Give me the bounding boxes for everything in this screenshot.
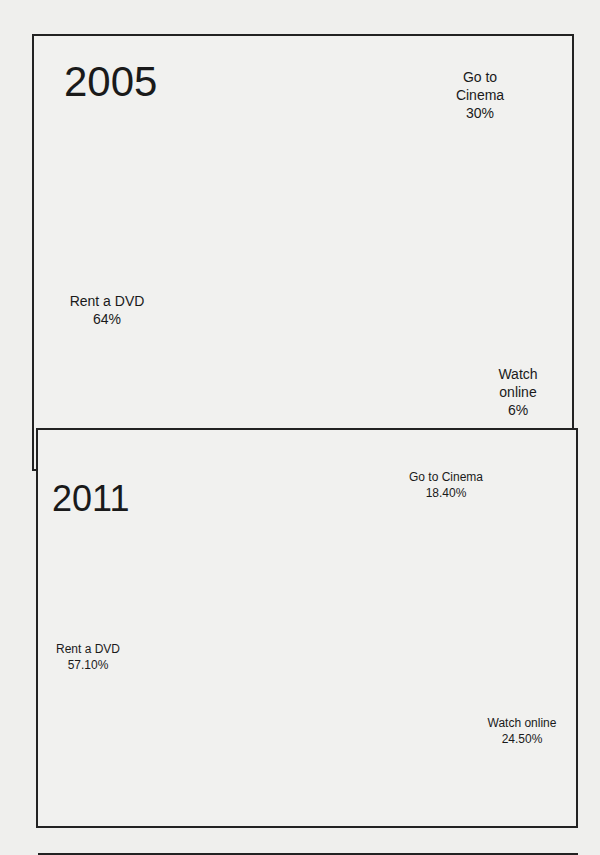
chart-title-2011: 2011 xyxy=(52,478,129,520)
label-dvd-2011: Rent a DVD 57.10% xyxy=(48,642,128,673)
label-dvd-2005: Rent a DVD 64% xyxy=(60,292,154,328)
label-cinema-2011: Go to Cinema 18.40% xyxy=(396,470,496,501)
label-online-2005: Watch online 6% xyxy=(486,365,550,420)
chart-title-2005: 2005 xyxy=(64,58,157,106)
label-cinema-2005: Go to Cinema 30% xyxy=(444,68,516,123)
label-online-2011: Watch online 24.50% xyxy=(476,716,568,747)
